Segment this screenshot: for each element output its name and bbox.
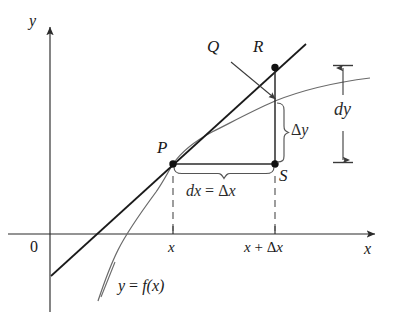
q-pointer-arrow — [231, 62, 276, 99]
point-dots-group — [169, 64, 278, 168]
point-label-Q: Q — [207, 38, 219, 55]
dx-equals-part: = — [201, 182, 218, 199]
dx-x-part: x — [228, 182, 235, 199]
delta-y-y-part: y — [301, 121, 308, 138]
x-tick-x-part: x — [244, 239, 251, 255]
triangle-legs-group — [173, 67, 275, 164]
axes-group — [8, 27, 375, 312]
point-label-S: S — [279, 167, 288, 184]
dx-part: dx — [186, 182, 201, 199]
x-tick-plus-sign: + — [251, 239, 267, 255]
curve-equals-part: = — [125, 277, 142, 294]
y-axis-label: y — [29, 13, 36, 29]
point-label-P: P — [157, 139, 167, 156]
dx-delta-sign: Δ — [218, 182, 228, 199]
x-tick-delta-sign: Δ — [267, 239, 277, 255]
measure-label-delta-y: Δy — [291, 122, 308, 138]
curve-label-leader-group — [101, 262, 115, 297]
origin-label: 0 — [30, 239, 38, 255]
point-label-R: R — [253, 38, 263, 55]
curve-paren-part: (x) — [147, 277, 165, 294]
curve-equation-label: y = f(x) — [118, 278, 164, 294]
delta-y-delta-sign: Δ — [291, 121, 301, 138]
point-dot-P — [169, 160, 176, 167]
differentials-diagram: y x 0 x x + Δx P R S Q dx = Δx Δy dy y =… — [0, 0, 405, 323]
curve-label-leader-line — [101, 262, 115, 297]
brace-dx-path — [174, 167, 274, 179]
measure-label-dy: dy — [334, 100, 351, 118]
x-tick-label-x-plus-delta-x: x + Δx — [244, 240, 283, 255]
brace-dx-group — [174, 167, 274, 179]
brace-delta-y-path — [277, 103, 289, 162]
measure-label-dx: dx = Δx — [186, 183, 236, 199]
diagram-canvas — [0, 0, 405, 323]
brace-delta-y-group — [277, 103, 289, 162]
q-pointer-arrow-group — [231, 62, 276, 99]
x-axis-label: x — [364, 241, 371, 257]
x-tick-label-x: x — [168, 240, 175, 255]
x-tick-x-part-2: x — [276, 239, 283, 255]
point-dot-R — [271, 64, 278, 71]
point-dot-S — [271, 160, 278, 167]
